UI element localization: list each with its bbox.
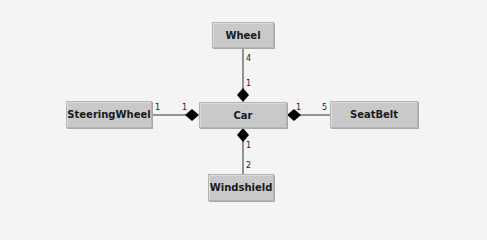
composition-diamond-top: [237, 88, 249, 102]
class-wheel: Wheel: [212, 22, 274, 48]
composition-diamond-bottom: [237, 128, 249, 142]
class-seatbelt: SeatBelt: [330, 101, 418, 128]
class-windshield: Windshield: [208, 174, 274, 201]
class-car: Car: [199, 102, 287, 128]
mult-windshield-whole: 1: [246, 141, 251, 150]
mult-steering-part: 1: [155, 103, 160, 112]
mult-wheel-whole: 1: [246, 79, 251, 88]
composition-diamond-left: [185, 109, 199, 121]
mult-seatbelt-whole: 1: [296, 103, 301, 112]
class-steeringwheel: SteeringWheel: [66, 101, 152, 128]
mult-seatbelt-part: 5: [322, 103, 327, 112]
mult-windshield-part: 2: [246, 161, 251, 170]
mult-wheel-part: 4: [246, 54, 251, 63]
mult-steering-whole: 1: [182, 103, 187, 112]
